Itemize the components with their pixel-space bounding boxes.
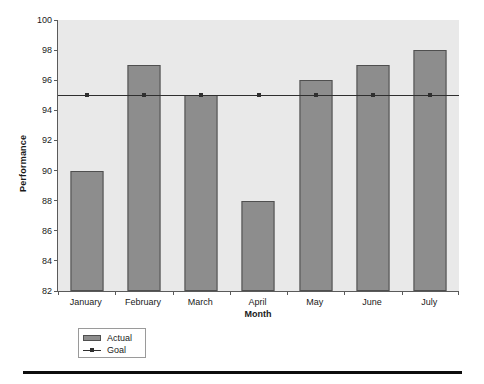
x-axis-tick-mark — [458, 291, 459, 295]
y-axis-tick-label: 90 — [42, 166, 52, 176]
legend-item-goal[interactable]: Goal — [83, 344, 141, 356]
chart-legend: ActualGoal — [78, 328, 146, 358]
bar-slot — [344, 20, 401, 291]
bar-slot — [58, 20, 115, 291]
x-axis-tick-mark — [402, 291, 403, 295]
x-axis-tick-label: June — [362, 296, 382, 308]
x-axis-title: Month — [57, 309, 459, 319]
x-axis-tick-labels: JanuaryFebruaryMarchAprilMayJuneJuly — [57, 296, 459, 310]
legend-item-actual[interactable]: Actual — [83, 332, 141, 344]
bar-march[interactable] — [185, 95, 218, 291]
x-axis-tick-mark — [344, 291, 345, 295]
bars-layer — [58, 20, 459, 291]
plot-area: 828486889092949698100 — [57, 20, 459, 292]
bar-slot — [115, 20, 172, 291]
x-axis-tick-mark — [230, 291, 231, 295]
bottom-rule — [23, 371, 462, 374]
y-axis-tick-label: 94 — [42, 105, 52, 115]
bar-april[interactable] — [242, 201, 275, 291]
x-axis-tick-mark — [115, 291, 116, 295]
legend-line-point — [90, 348, 94, 352]
x-axis-tick-label: May — [306, 296, 323, 308]
x-axis-tick-label: July — [421, 296, 437, 308]
y-axis-tick-label: 100 — [37, 15, 52, 25]
y-axis-tick-label: 98 — [42, 45, 52, 55]
bar-january[interactable] — [70, 171, 103, 291]
y-axis-tick: 96 — [1, 75, 58, 85]
x-axis-tick-label: January — [70, 296, 102, 308]
legend-label: Goal — [107, 344, 126, 356]
y-axis-tick-label: 82 — [42, 286, 52, 296]
legend-bar-swatch-icon — [83, 332, 103, 344]
y-axis-tick: 86 — [1, 226, 58, 236]
y-axis-tick-label: 84 — [42, 256, 52, 266]
y-axis-tick: 100 — [1, 15, 58, 25]
bar-may[interactable] — [299, 80, 332, 291]
x-axis-tick-label: April — [248, 296, 266, 308]
x-axis-tick-mark — [173, 291, 174, 295]
bar-june[interactable] — [357, 65, 390, 291]
y-axis-tick: 90 — [1, 166, 58, 176]
x-axis-tick-label: March — [188, 296, 213, 308]
bar-slot — [173, 20, 230, 291]
performance-bar-chart: Performance 828486889092949698100 Januar… — [0, 0, 484, 384]
y-axis-tick: 84 — [1, 256, 58, 266]
y-axis-tick-label: 92 — [42, 135, 52, 145]
y-axis-tick: 98 — [1, 45, 58, 55]
bar-slot — [402, 20, 459, 291]
y-axis-tick: 88 — [1, 196, 58, 206]
x-axis-tick-mark — [287, 291, 288, 295]
x-axis-tick-mark — [58, 291, 59, 295]
legend-label: Actual — [107, 332, 132, 344]
y-axis-tick: 94 — [1, 105, 58, 115]
y-axis-tick: 82 — [1, 286, 58, 296]
y-axis-tick: 92 — [1, 135, 58, 145]
y-axis-tick-label: 96 — [42, 75, 52, 85]
x-axis-tick-label: February — [125, 296, 161, 308]
bar-july[interactable] — [414, 50, 447, 291]
legend-swatch — [83, 335, 101, 341]
legend-line-marker-icon — [83, 344, 103, 356]
y-axis-tick-label: 88 — [42, 196, 52, 206]
bar-slot — [230, 20, 287, 291]
y-axis-tick-label: 86 — [42, 226, 52, 236]
bar-slot — [287, 20, 344, 291]
bar-february[interactable] — [127, 65, 160, 291]
